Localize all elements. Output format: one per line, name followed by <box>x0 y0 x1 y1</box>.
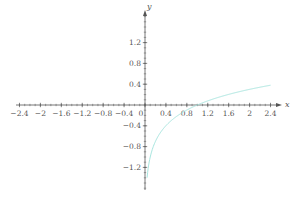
x-tick-label: 1.6 <box>223 109 235 118</box>
x-axis-label: x <box>285 100 290 109</box>
y-axis-ticks: 1.20.80.4−0.4−0.8−1.2 <box>123 17 147 189</box>
x-tick-label: −0.4 <box>115 109 133 118</box>
y-tick-label: 1.2 <box>129 38 141 47</box>
x-tick-label: −2.4 <box>10 109 28 118</box>
x-tick-label: 2.4 <box>265 109 277 118</box>
x-tick-label: 0.4 <box>160 109 172 118</box>
x-tick-label: −0.8 <box>94 109 112 118</box>
y-tick-label: −0.8 <box>123 142 141 151</box>
x-tick-label: −2 <box>35 109 46 118</box>
function-curve <box>147 85 270 177</box>
y-tick-label: −1.2 <box>123 163 141 172</box>
function-plot: −2.4−2−1.6−1.2−0.8−0.400.40.81.21.622.4 … <box>0 0 300 200</box>
x-tick-label: −1.6 <box>52 109 70 118</box>
x-tick-label: 2 <box>247 109 252 118</box>
y-tick-label: 0.8 <box>129 59 141 68</box>
x-tick-label: 1.2 <box>202 109 214 118</box>
x-tick-label: −1.2 <box>73 109 91 118</box>
y-tick-label: −0.4 <box>123 121 141 130</box>
y-tick-label: 0.4 <box>129 80 141 89</box>
y-axis-label: y <box>146 2 152 11</box>
x-tick-label: 0 <box>139 109 144 118</box>
